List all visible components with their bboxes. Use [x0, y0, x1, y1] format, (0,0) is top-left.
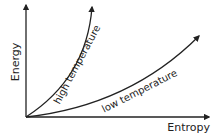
x-axis-label: Entropy: [167, 121, 210, 134]
energy-entropy-diagram: Energy Entropy high temperature low temp…: [0, 0, 217, 140]
y-axis-label: Energy: [9, 42, 22, 81]
high-temperature-label: high temperature: [51, 23, 102, 106]
low-temperature-label: low temperature: [100, 67, 179, 115]
